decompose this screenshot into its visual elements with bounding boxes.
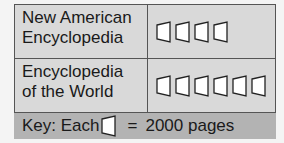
icon-cell [148,5,275,58]
book-icon [194,21,209,43]
book-icon [156,75,171,97]
key-legend: Key: Each = 2000 pages [14,113,276,139]
table-row: Encyclopedia of the World [14,58,276,113]
row-label: New American Encyclopedia [15,5,148,58]
book-icon [175,21,190,43]
book-icon [156,21,171,43]
book-icon [194,75,209,97]
book-icon [251,75,266,97]
icon-cell [148,59,275,112]
row-label-line: Encyclopedia [22,62,147,82]
book-icon [232,75,247,97]
key-equals: = [128,116,138,136]
row-label-line: of the World [22,82,147,102]
key-value: 2000 pages [145,116,234,136]
book-icon [175,75,190,97]
book-icon [213,75,228,97]
table-row: New American Encyclopedia [14,4,276,58]
row-label-line: New American [22,8,147,28]
book-icon [213,21,228,43]
key-prefix: Key: Each [22,116,100,136]
pictograph-table: New American Encyclopedia Encyclopedia o… [14,4,276,139]
row-label-line: Encyclopedia [22,28,147,48]
row-label: Encyclopedia of the World [15,59,148,112]
book-icon [101,115,116,137]
